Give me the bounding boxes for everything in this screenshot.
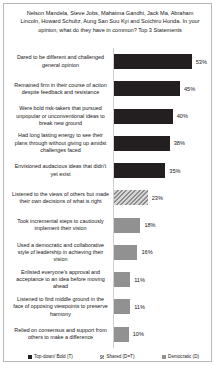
bar-value-label: 40% [177, 113, 188, 119]
chart-legend: Top-down/ Bold (T)Shared (D=T)Democratic… [10, 354, 213, 359]
bar-value-label: 35% [169, 168, 180, 174]
bar-democratic[interactable] [114, 245, 137, 260]
bar-topdown[interactable] [114, 163, 165, 178]
chart-row: Remained firm in their course of action … [10, 75, 210, 102]
bar-value-label: 53% [196, 59, 207, 65]
bar-value-label: 38% [174, 140, 185, 146]
bar-value-label: 16% [141, 249, 152, 255]
legend-label: Top-down/ Bold (T) [34, 354, 73, 359]
category-label: Relied on consensus and support from oth… [12, 327, 109, 342]
chart-frame: Nelson Mandela, Steve Jobs, Mahatma Gand… [3, 3, 212, 362]
chart-row: Listened to the views of others but made… [10, 184, 210, 211]
bar-value-label: 23% [152, 195, 163, 201]
bar-democratic[interactable] [114, 218, 140, 233]
legend-swatch-icon [162, 355, 166, 359]
bar-value-label: 18% [144, 222, 155, 228]
chart-row: Had long lasting energy to see their pla… [10, 130, 210, 157]
legend-label: Shared (D=T) [106, 354, 134, 359]
bar-shared[interactable] [114, 190, 148, 205]
category-label: Listened to find middle ground in the fa… [12, 296, 109, 318]
category-label: Were bold risk-takers that pursued unpop… [12, 105, 109, 127]
legend-item-democratic[interactable]: Democratic (D) [162, 354, 199, 359]
category-label: Had long lasting energy to see their pla… [12, 132, 109, 154]
chart-row: Dared to be different and challenged gen… [10, 48, 210, 75]
bar-group: 11% [114, 299, 145, 314]
legend-swatch-icon [100, 355, 104, 359]
bar-value-label: 10% [133, 331, 144, 337]
chart-row: Enlisted everyone's approval and accepta… [10, 266, 210, 293]
bar-topdown[interactable] [114, 136, 170, 151]
bar-group: 35% [114, 163, 181, 178]
bar-democratic[interactable] [114, 272, 130, 287]
chart-row: Took incremental steps to cautiously imp… [10, 212, 210, 239]
category-label: Dared to be different and challenged gen… [12, 54, 109, 69]
bar-value-label: 11% [134, 277, 145, 283]
plot-area: Dared to be different and challenged gen… [10, 48, 210, 348]
legend-item-shared[interactable]: Shared (D=T) [100, 354, 134, 359]
chart-row: Envisioned audacious ideas that didn't y… [10, 157, 210, 184]
legend-swatch-icon [28, 355, 32, 359]
category-label: Listened to the views of others but made… [12, 191, 109, 206]
bar-topdown[interactable] [114, 81, 180, 96]
category-label: Enlisted everyone's approval and accepta… [12, 269, 109, 291]
chart-row: Were bold risk-takers that pursued unpop… [10, 103, 210, 130]
chart-row: Relied on consensus and support from oth… [10, 321, 210, 348]
bar-group: 18% [114, 218, 156, 233]
chart-title: Nelson Mandela, Steve Jobs, Mahatma Gand… [20, 9, 200, 34]
bar-group: 40% [114, 109, 188, 124]
bar-democratic[interactable] [114, 299, 130, 314]
bar-group: 10% [114, 327, 144, 342]
category-label: Used a democratic and collaborative styl… [12, 242, 109, 264]
category-label: Remained firm in their course of action … [12, 82, 109, 97]
category-label: Took incremental steps to cautiously imp… [12, 218, 109, 233]
bar-democratic[interactable] [114, 327, 129, 342]
bar-topdown[interactable] [114, 109, 173, 124]
bar-group: 38% [114, 136, 185, 151]
legend-label: Democratic (D) [168, 354, 199, 359]
bar-value-label: 11% [134, 304, 145, 310]
category-label: Envisioned audacious ideas that didn't y… [12, 163, 109, 178]
bar-group: 16% [114, 245, 153, 260]
chart-row: Used a democratic and collaborative styl… [10, 239, 210, 266]
bar-value-label: 45% [184, 86, 195, 92]
bar-group: 11% [114, 272, 145, 287]
bar-group: 23% [114, 190, 163, 205]
bar-group: 45% [114, 81, 195, 96]
bar-topdown[interactable] [114, 54, 192, 69]
chart-row: Listened to find middle ground in the fa… [10, 293, 210, 320]
bar-group: 53% [114, 54, 207, 69]
legend-item-topdown[interactable]: Top-down/ Bold (T) [28, 354, 73, 359]
